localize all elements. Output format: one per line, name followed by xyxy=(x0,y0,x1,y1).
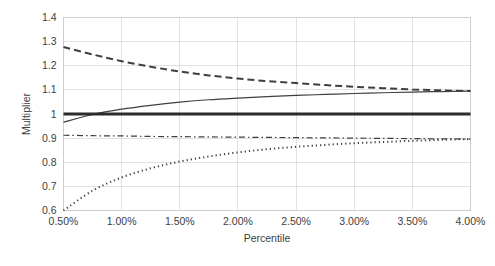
y-axis-title: Multiplier xyxy=(20,92,32,135)
x-axis-title: Percentile xyxy=(244,232,291,244)
x-tick-label-0: 0.50% xyxy=(49,215,79,227)
x-tick-label-6: 3.50% xyxy=(397,215,427,227)
y-tick-label-7: 1.3 xyxy=(42,35,57,47)
x-tick-label-1: 1.00% xyxy=(107,215,137,227)
x-tick-label-4: 2.50% xyxy=(281,215,311,227)
y-tick-label-6: 1.2 xyxy=(42,59,57,71)
x-tick-label-2: 1.50% xyxy=(165,215,195,227)
chart-container: 0.60.70.80.911.11.21.31.4 0.50%1.00%1.50… xyxy=(0,0,495,266)
line-chart: 0.60.70.80.911.11.21.31.4 0.50%1.00%1.50… xyxy=(0,0,495,266)
x-tick-label-7: 4.00% xyxy=(456,215,486,227)
x-tick-label-3: 2.00% xyxy=(223,215,253,227)
y-tick-label-4: 1 xyxy=(51,108,57,120)
x-tick-label-5: 3.00% xyxy=(339,215,369,227)
y-tick-label-3: 0.9 xyxy=(42,132,57,144)
y-tick-label-2: 0.8 xyxy=(42,156,57,168)
y-tick-label-5: 1.1 xyxy=(42,83,57,95)
y-tick-label-8: 1.4 xyxy=(42,11,57,23)
y-tick-label-1: 0.7 xyxy=(42,180,57,192)
